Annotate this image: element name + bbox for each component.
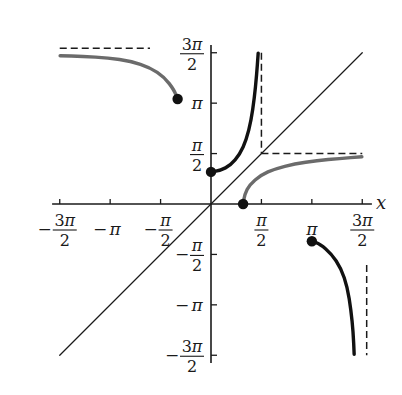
x-tick: π− [93,199,122,239]
svg-text:2: 2 [192,256,202,275]
svg-text:−: − [175,244,189,264]
x-axis-label: x [376,192,386,213]
svg-text:π: π [255,211,267,230]
svg-text:−: − [165,345,179,365]
x-tick: 3π2− [38,199,77,250]
svg-text:π: π [191,236,203,255]
y-tick: 3π2− [165,337,217,376]
svg-text:π: π [190,295,203,315]
endpoint-dot [238,199,248,209]
svg-text:2: 2 [256,231,266,250]
axes: x [52,45,386,363]
plot-canvas: x3π2−π−π2−π2π3π23π2ππ2π2−π−3π2− [0,0,402,395]
svg-text:2: 2 [187,357,197,376]
function-plot: x3π2−π−π2−π2π3π23π2ππ2π2−π−3π2− [0,0,402,395]
function-curve [60,56,177,99]
svg-text:3π: 3π [54,211,75,230]
function-curve [312,241,354,354]
svg-text:−: − [38,219,52,239]
svg-text:π: π [109,219,122,239]
svg-text:2: 2 [187,55,197,74]
x-tick: π2 [254,199,268,250]
svg-text:3π: 3π [182,35,203,54]
y-tick: π [190,93,217,113]
svg-text:−: − [143,219,157,239]
svg-text:π: π [191,136,203,155]
svg-text:π: π [159,211,171,230]
x-tick: π2− [143,199,172,250]
svg-text:π: π [305,219,318,239]
svg-text:2: 2 [160,231,170,250]
x-tick: π [305,199,318,239]
endpoint-dot [172,94,182,104]
endpoint-dot [206,167,216,177]
svg-text:2: 2 [192,156,202,175]
svg-text:2: 2 [60,231,70,250]
function-curve [211,53,258,172]
x-tick: 3π2 [350,199,374,250]
svg-text:3π: 3π [352,211,373,230]
svg-text:π: π [190,93,203,113]
svg-text:2: 2 [357,231,367,250]
endpoint-dot [307,236,317,246]
svg-text:−: − [93,219,107,239]
function-curve [243,157,362,204]
svg-text:−: − [175,295,189,315]
svg-text:3π: 3π [182,337,203,356]
